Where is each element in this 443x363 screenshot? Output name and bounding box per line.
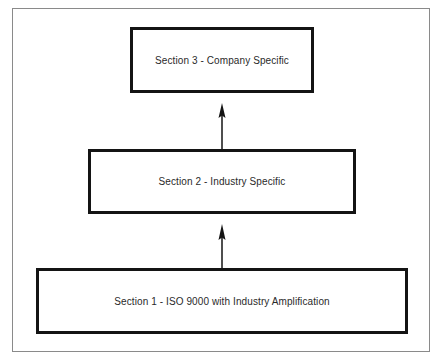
- section-2-box: Section 2 - Industry Specific: [88, 149, 356, 214]
- section-3-box: Section 3 - Company Specific: [130, 27, 314, 93]
- section-3-label: Section 3 - Company Specific: [155, 55, 289, 66]
- section-1-box: Section 1 - ISO 9000 with Industry Ampli…: [36, 268, 408, 334]
- section-2-label: Section 2 - Industry Specific: [159, 176, 286, 187]
- section-1-label: Section 1 - ISO 9000 with Industry Ampli…: [114, 296, 329, 307]
